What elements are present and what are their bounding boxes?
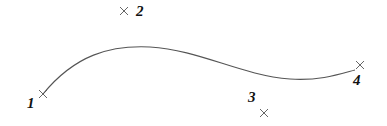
cross-marker-icon: [39, 90, 47, 98]
point-label-1: 1: [27, 95, 35, 111]
control-point-3: 3: [247, 89, 268, 117]
cross-marker-icon: [120, 7, 128, 15]
cross-marker-icon: [356, 61, 364, 69]
control-point-1: 1: [27, 90, 47, 111]
bezier-diagram: 1 2 3 4: [0, 0, 387, 126]
point-label-3: 3: [247, 89, 256, 105]
point-label-4: 4: [352, 72, 361, 88]
cross-marker-icon: [260, 109, 268, 117]
point-label-2: 2: [135, 3, 144, 19]
control-point-2: 2: [120, 3, 144, 19]
bezier-curve: [43, 47, 355, 94]
control-point-4: 4: [352, 61, 364, 88]
